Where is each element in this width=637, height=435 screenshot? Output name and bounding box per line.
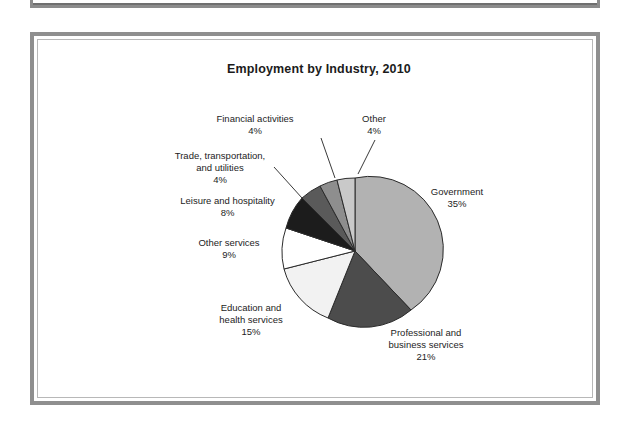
pie-label-trade-transportation-and-utilities-line-1: Trade, transportation, (175, 150, 265, 161)
pie-label-leisure-and-hospitality-value: 8% (160, 207, 295, 219)
pie-label-other-services-line-1: Other services (198, 237, 259, 248)
pie-chart-graphic (38, 40, 600, 405)
chart-panel-inner-border: Employment by Industry, 2010 (37, 39, 593, 398)
pie-label-financial-activities-value: 4% (195, 125, 315, 137)
pie-label-other-services: Other services 9% (179, 237, 279, 261)
partial-panel-above (30, 0, 600, 8)
leader-line-other (358, 140, 375, 174)
pie-label-leisure-and-hospitality-line-1: Leisure and hospitality (180, 195, 275, 206)
pie-label-education-and-health-services-value: 15% (196, 326, 306, 338)
pie-label-financial-activities-line-1: Financial activities (216, 113, 293, 124)
chart-panel: Employment by Industry, 2010 (30, 32, 600, 405)
leader-line-financial-activities (321, 138, 335, 178)
pie-label-professional-and-business-services: Professional and business services 21% (365, 327, 487, 364)
pie-label-education-and-health-services-line-2: health services (196, 314, 306, 326)
pie-label-financial-activities: Financial activities 4% (195, 113, 315, 137)
pie-label-trade-transportation-and-utilities: Trade, transportation, and utilities 4% (156, 150, 284, 187)
pie-label-other-services-value: 9% (179, 249, 279, 261)
pie-label-other-value: 4% (348, 125, 400, 137)
pie-label-professional-and-business-services-value: 21% (365, 351, 487, 363)
pie-label-government: Government 35% (409, 186, 505, 210)
pie-chart: Employment by Industry, 2010 (38, 40, 600, 405)
pie-label-professional-and-business-services-line-2: business services (365, 339, 487, 351)
pie-label-other-line-1: Other (362, 113, 386, 124)
pie-label-leisure-and-hospitality: Leisure and hospitality 8% (160, 195, 295, 219)
pie-label-trade-transportation-and-utilities-value: 4% (156, 174, 284, 186)
pie-label-education-and-health-services: Education and health services 15% (196, 302, 306, 339)
pie-label-trade-transportation-and-utilities-line-2: and utilities (156, 162, 284, 174)
pie-label-professional-and-business-services-line-1: Professional and (391, 327, 462, 338)
panel-divider-line (33, 3, 597, 5)
scanned-page: Employment by Industry, 2010 (0, 0, 637, 435)
pie-label-government-value: 35% (409, 198, 505, 210)
pie-label-education-and-health-services-line-1: Education and (221, 302, 282, 313)
pie-label-government-line-1: Government (431, 186, 483, 197)
pie-label-other: Other 4% (348, 113, 400, 137)
